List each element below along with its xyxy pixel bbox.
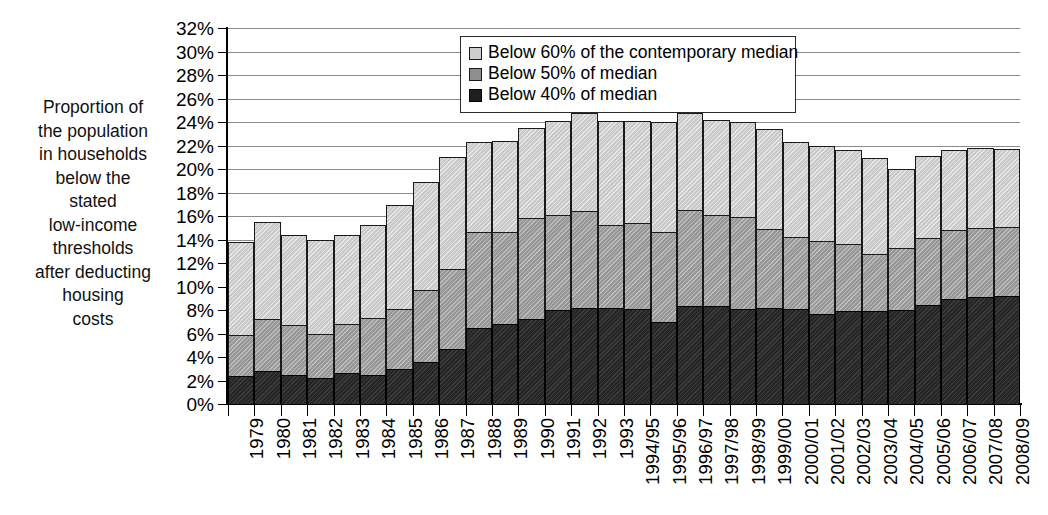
- x-axis-tick-mark: [1020, 405, 1021, 416]
- bar-segment: [994, 149, 1020, 227]
- bar-column[interactable]: [809, 28, 835, 404]
- bar-segment: [915, 305, 941, 404]
- bar-segment: [756, 229, 782, 308]
- bar-column[interactable]: [413, 28, 439, 404]
- x-axis-tick-mark: [492, 405, 493, 416]
- bar-column[interactable]: [334, 28, 360, 404]
- bar-segment: [809, 314, 835, 404]
- bar-column[interactable]: [835, 28, 861, 404]
- bar-column[interactable]: [967, 28, 993, 404]
- bar-column[interactable]: [307, 28, 333, 404]
- x-axis-tick-label: 2003/04: [882, 418, 901, 485]
- bar-segment: [994, 296, 1020, 404]
- bar-segment: [703, 120, 729, 215]
- chart-root: Proportion ofthe populationin households…: [0, 0, 1048, 515]
- x-axis-tick-label: 1996/97: [697, 418, 716, 485]
- bar-segment: [334, 373, 360, 404]
- bar-segment: [360, 375, 386, 404]
- bar-segment: [651, 232, 677, 321]
- y-axis-tick-label: 16%: [152, 207, 214, 226]
- x-axis-tick-mark: [888, 405, 889, 416]
- bar-segment: [651, 122, 677, 232]
- bar-segment: [334, 324, 360, 373]
- bar-column[interactable]: [862, 28, 888, 404]
- bar-segment: [967, 148, 993, 228]
- x-axis-tick-label: 1998/99: [750, 418, 769, 485]
- y-axis-tick-label: 28%: [152, 66, 214, 85]
- bar-segment: [254, 319, 280, 371]
- bar-column[interactable]: [941, 28, 967, 404]
- x-axis-tick-label: 1980: [275, 418, 294, 459]
- bar-segment: [307, 378, 333, 404]
- x-axis-tick-label: 1990: [539, 418, 558, 459]
- bar-column[interactable]: [281, 28, 307, 404]
- bar-segment: [360, 318, 386, 374]
- legend-item-label: Below 50% of median: [488, 65, 657, 83]
- y-axis-tick-label: 30%: [152, 43, 214, 62]
- bar-segment: [835, 244, 861, 311]
- legend-swatch-icon: [469, 47, 482, 60]
- bar-segment: [413, 182, 439, 290]
- x-axis-tick-label: 1991: [565, 418, 584, 459]
- bar-segment: [756, 308, 782, 404]
- x-axis-tick-label: 1999/00: [776, 418, 795, 485]
- x-axis-tick-mark: [466, 405, 467, 416]
- x-axis-tick-label: 1986: [433, 418, 452, 459]
- bar-segment: [598, 225, 624, 307]
- bar-segment: [809, 146, 835, 241]
- x-axis-tick-mark: [545, 405, 546, 416]
- legend-swatch-icon: [469, 68, 482, 81]
- bar-column[interactable]: [994, 28, 1020, 404]
- x-axis-tick-mark: [518, 405, 519, 416]
- bar-segment: [862, 254, 888, 312]
- bar-segment: [228, 376, 254, 404]
- bar-segment: [888, 310, 914, 404]
- x-axis-tick-label: 2000/01: [803, 418, 822, 485]
- bar-segment: [624, 309, 650, 404]
- bar-segment: [835, 150, 861, 244]
- x-axis-tick-label: 2004/05: [908, 418, 927, 485]
- legend-item[interactable]: Below 50% of median: [469, 64, 787, 84]
- x-axis-tick-label: 2002/03: [855, 418, 874, 485]
- legend-item-label: Below 60% of the contemporary median: [488, 44, 798, 62]
- bar-column[interactable]: [915, 28, 941, 404]
- bar-segment: [598, 121, 624, 226]
- x-axis-tick-mark: [307, 405, 308, 416]
- x-axis-tick-label: 1984: [380, 418, 399, 459]
- bar-segment: [571, 113, 597, 212]
- legend-swatch-icon: [469, 89, 482, 102]
- y-axis-tick-label: 22%: [152, 137, 214, 156]
- bar-column[interactable]: [228, 28, 254, 404]
- bar-segment: [439, 349, 465, 404]
- bar-segment: [281, 375, 307, 404]
- bar-segment: [624, 121, 650, 223]
- bar-segment: [307, 240, 333, 334]
- x-axis-tick-mark: [967, 405, 968, 416]
- bar-segment: [862, 158, 888, 253]
- bar-segment: [307, 334, 333, 379]
- legend-item[interactable]: Below 60% of the contemporary median: [469, 43, 787, 63]
- bar-segment: [254, 222, 280, 320]
- bar-segment: [254, 371, 280, 404]
- x-axis-tick-mark: [703, 405, 704, 416]
- bar-segment: [545, 121, 571, 215]
- bar-column[interactable]: [386, 28, 412, 404]
- x-axis-tick-label: 1995/96: [671, 418, 690, 485]
- bar-column[interactable]: [888, 28, 914, 404]
- y-axis-tick-label: 6%: [152, 325, 214, 344]
- bar-segment: [439, 157, 465, 269]
- y-axis-tick-label: 2%: [152, 372, 214, 391]
- bar-segment: [334, 235, 360, 324]
- bar-segment: [677, 306, 703, 404]
- bar-segment: [386, 309, 412, 369]
- x-axis-tick-mark: [439, 405, 440, 416]
- x-axis-tick-mark: [334, 405, 335, 416]
- bar-segment: [703, 306, 729, 404]
- bar-segment: [545, 310, 571, 404]
- bar-column[interactable]: [360, 28, 386, 404]
- bar-segment: [941, 230, 967, 299]
- bar-segment: [835, 311, 861, 404]
- legend-item[interactable]: Below 40% of median: [469, 85, 787, 105]
- bar-segment: [386, 369, 412, 404]
- bar-column[interactable]: [254, 28, 280, 404]
